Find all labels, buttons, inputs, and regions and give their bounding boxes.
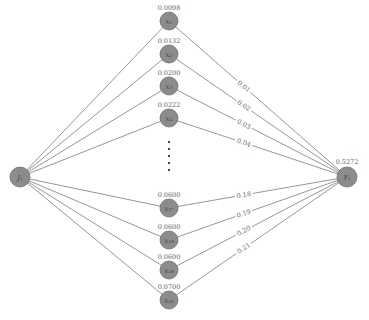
edge-source-hidden <box>20 177 169 270</box>
hidden-node-label: x₂₀ <box>164 297 174 305</box>
hidden-node-label: x₁ <box>166 18 173 26</box>
hidden-node-label: x₁₉ <box>164 267 174 275</box>
edges-hidden-to-target <box>169 21 347 300</box>
source-node: J₁ <box>10 167 30 187</box>
hidden-node-value: 0.0132 <box>158 37 181 45</box>
edge-source-hidden <box>20 177 169 300</box>
edge-source-hidden <box>20 177 169 240</box>
network-diagram: 0.010.020.030.040.180.190.200.21 0.0098x… <box>0 0 369 320</box>
edge-source-hidden <box>20 118 169 177</box>
target-node: 0.5272 Y₁ <box>336 158 359 187</box>
hidden-node-label: x₃ <box>166 83 173 91</box>
edges-source-to-hidden <box>20 21 169 300</box>
edge-weight-label: 0.18 <box>236 190 252 200</box>
edge-weight-label: 0.19 <box>236 207 252 219</box>
hidden-node-label: x₁₇ <box>164 205 174 213</box>
edge-hidden-target <box>169 177 347 240</box>
edge-hidden-target <box>169 177 347 208</box>
edge-source-hidden <box>20 54 169 177</box>
target-node-value: 0.5272 <box>336 158 359 166</box>
edge-hidden-target <box>169 177 347 300</box>
ellipsis-dots <box>168 141 170 171</box>
hidden-node-value: 0.0600 <box>158 253 181 261</box>
hidden-node-label: x₂ <box>166 51 173 59</box>
edge-source-hidden <box>20 177 169 208</box>
target-node-label: Y₁ <box>343 174 351 182</box>
hidden-node: 0.0222x₄ <box>158 101 181 127</box>
hidden-node-label: x₄ <box>166 115 173 123</box>
edge-weight-labels: 0.010.020.030.040.180.190.200.21 <box>233 77 254 257</box>
edge-hidden-target <box>169 86 347 177</box>
edge-hidden-target <box>169 21 347 177</box>
hidden-node-value: 0.0098 <box>158 4 181 12</box>
hidden-node: 0.0600x₁₈ <box>158 223 181 249</box>
edge-hidden-target <box>169 54 347 177</box>
edge-hidden-target <box>169 177 347 270</box>
hidden-node-value: 0.0600 <box>158 223 181 231</box>
source-node-label: J₁ <box>15 174 23 182</box>
hidden-node-value: 0.0222 <box>158 101 181 109</box>
hidden-node-value: 0.0600 <box>158 191 181 199</box>
edge-source-hidden <box>20 21 169 177</box>
hidden-node-value: 0.0700 <box>158 283 181 291</box>
hidden-node-value: 0.0200 <box>158 69 181 77</box>
hidden-node: 0.0700x₂₀ <box>158 283 181 309</box>
hidden-node: 0.0600x₁₉ <box>158 253 181 279</box>
edge-hidden-target <box>169 118 347 177</box>
hidden-node: 0.0600x₁₇ <box>158 191 181 217</box>
hidden-node: 0.0098x₁ <box>158 4 181 30</box>
hidden-node-label: x₁₈ <box>164 237 174 245</box>
edge-weight-label: 0.04 <box>236 137 252 149</box>
